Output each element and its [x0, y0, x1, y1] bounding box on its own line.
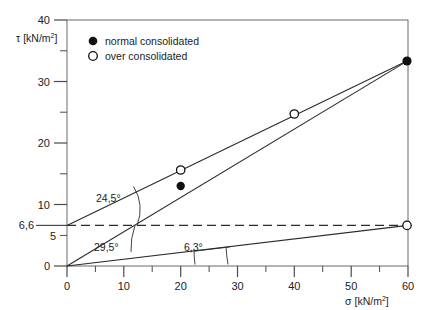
x-axis-symbol: σ: [345, 295, 352, 307]
y-tick-label-40: 40: [38, 14, 50, 26]
y-axis-symbol: τ: [16, 32, 21, 44]
x-tick-label-0: 0: [64, 280, 70, 292]
y-axis-unit-close: ]: [54, 32, 57, 44]
angle-label-24-5: 24,5°: [96, 192, 121, 204]
y-tick-label-66: 6,6: [19, 219, 34, 231]
x-axis-major-ticks: [67, 266, 408, 277]
data-point-normal-20: [177, 182, 185, 190]
x-tick-label-60: 60: [402, 280, 414, 292]
data-point-over-60: [403, 221, 411, 229]
x-tick-label-50: 50: [345, 280, 357, 292]
data-point-over-40: [290, 110, 298, 118]
y-tick-label-30: 30: [38, 76, 50, 88]
x-tick-label-10: 10: [118, 280, 130, 292]
legend-marker-normal-consolidated: [89, 37, 98, 46]
x-tick-label-20: 20: [175, 280, 187, 292]
y-axis-title: τ[kN/m2]: [16, 32, 57, 44]
legend-marker-over-consolidated: [89, 52, 98, 61]
x-tick-label-30: 30: [231, 280, 243, 292]
y-tick-label-0: 0: [44, 260, 50, 272]
data-point-over-20: [177, 166, 185, 174]
shear-strength-chart: 40 30 20 10 0 6,6 5 τ[kN/m2] 0 10 20 30 …: [0, 0, 434, 310]
y-tick-label-10: 10: [38, 199, 50, 211]
x-axis-unit-open: [kN/m: [354, 295, 382, 307]
y-axis-unit-open: [kN/m: [23, 32, 51, 44]
y-tick-label-20: 20: [38, 137, 50, 149]
x-axis-title: σ[kN/m2]: [345, 295, 389, 307]
y-tick-label-5: 5: [50, 230, 56, 242]
x-tick-label-40: 40: [288, 280, 300, 292]
legend-label-over-consolidated: over consolidated: [105, 50, 187, 62]
angle-label-29-5: 29,5°: [94, 241, 119, 253]
legend-label-normal-consolidated: normal consolidated: [105, 35, 199, 47]
data-point-normal-60: [402, 56, 411, 65]
x-axis-unit-close: ]: [386, 295, 389, 307]
angle-label-6-3: 6,3°: [184, 241, 203, 253]
